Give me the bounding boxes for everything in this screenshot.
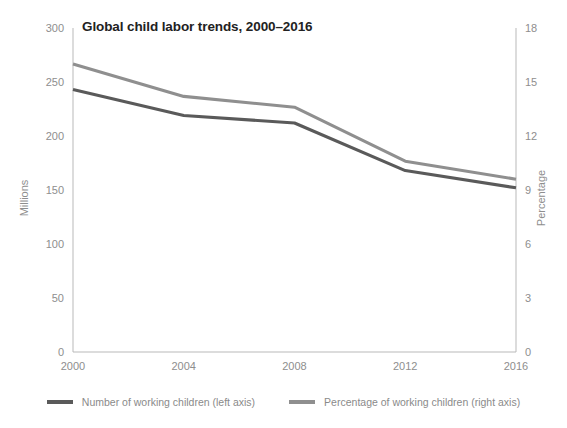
y-axis-left-tick-100: 100 <box>46 238 64 250</box>
legend-label-percentage-of-working-children: Percentage of working children (right ax… <box>324 396 520 408</box>
y-axis-right-tick-12: 12 <box>525 130 537 142</box>
legend-swatch-percentage-of-working-children <box>289 400 315 404</box>
axis-layer: 0501001502002503000369121518200020042008… <box>18 22 547 372</box>
chart-legend: Number of working children (left axis) P… <box>0 396 567 408</box>
legend-item-number-of-working-children[interactable]: Number of working children (left axis) <box>47 396 255 408</box>
y-axis-left-tick-300: 300 <box>46 22 64 34</box>
y-axis-left-tick-200: 200 <box>46 130 64 142</box>
y-axis-right-tick-3: 3 <box>525 292 531 304</box>
y-axis-left-title: Millions <box>18 179 30 216</box>
legend-label-number-of-working-children: Number of working children (left axis) <box>82 396 255 408</box>
y-axis-right-tick-18: 18 <box>525 22 537 34</box>
legend-item-percentage-of-working-children[interactable]: Percentage of working children (right ax… <box>289 396 520 408</box>
legend-swatch-number-of-working-children <box>47 400 73 404</box>
y-axis-right-title: Percentage <box>535 170 547 226</box>
y-axis-right-tick-0: 0 <box>525 346 531 358</box>
y-axis-right-tick-6: 6 <box>525 238 531 250</box>
y-axis-left-tick-50: 50 <box>52 292 64 304</box>
series-layer <box>73 64 516 188</box>
x-axis-tick-2000: 2000 <box>61 360 85 372</box>
y-axis-left-tick-150: 150 <box>46 184 64 196</box>
chart-container: Global child labor trends, 2000–2016 050… <box>0 0 567 428</box>
y-axis-left-tick-250: 250 <box>46 76 64 88</box>
x-axis-tick-2016: 2016 <box>504 360 528 372</box>
x-axis-tick-2008: 2008 <box>282 360 306 372</box>
x-axis-tick-2004: 2004 <box>172 360 196 372</box>
y-axis-left-tick-0: 0 <box>58 346 64 358</box>
chart-plot: 0501001502002503000369121518200020042008… <box>0 0 567 396</box>
x-axis-tick-2012: 2012 <box>393 360 417 372</box>
y-axis-right-tick-15: 15 <box>525 76 537 88</box>
series-line-millions <box>73 90 516 188</box>
y-axis-right-tick-9: 9 <box>525 184 531 196</box>
